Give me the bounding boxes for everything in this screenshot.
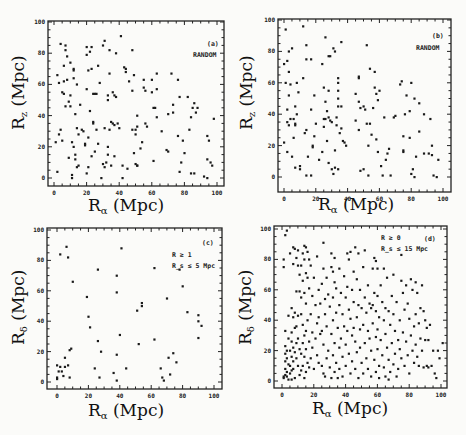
panel-a-ylabel: Rz (Mpc) bbox=[8, 55, 29, 130]
panel-d-ylabel: Rδ (Mpc) bbox=[235, 270, 256, 345]
figure-four-panel-scatter: 020406080100020406080100 (a) RANDOM Rz (… bbox=[0, 0, 466, 435]
svg-text:40: 40 bbox=[37, 317, 45, 324]
svg-text:100: 100 bbox=[33, 226, 44, 233]
svg-text:100: 100 bbox=[34, 18, 45, 25]
svg-text:40: 40 bbox=[268, 110, 276, 117]
panel-b-annotation: RANDOM bbox=[416, 44, 440, 52]
svg-text:80: 80 bbox=[268, 47, 276, 54]
svg-text:40: 40 bbox=[342, 391, 350, 398]
svg-text:80: 80 bbox=[406, 391, 414, 398]
svg-text:80: 80 bbox=[38, 49, 46, 56]
svg-text:0: 0 bbox=[282, 195, 286, 202]
panel-a-label: (a) bbox=[207, 40, 219, 48]
svg-text:80: 80 bbox=[179, 392, 187, 399]
svg-text:60: 60 bbox=[264, 286, 272, 293]
panel-c-annotation-1: R ≥ 1 bbox=[172, 251, 192, 259]
svg-text:20: 20 bbox=[38, 143, 46, 150]
svg-text:0: 0 bbox=[267, 377, 271, 384]
panel-c: 020406080100020406080100 (c) R ≥ 1 R_s ≤… bbox=[8, 226, 222, 421]
panel-d-annotation-2: R_s ≤ 15 Mpc bbox=[381, 245, 428, 253]
panel-d-annotation-1: R ≥ 0 bbox=[381, 234, 401, 242]
svg-text:60: 60 bbox=[38, 80, 46, 87]
svg-text:60: 60 bbox=[148, 392, 156, 399]
svg-text:0: 0 bbox=[271, 173, 275, 180]
panel-d-label: (d) bbox=[424, 235, 436, 243]
panel-d-xlabel: Rα (Mpc) bbox=[312, 398, 388, 419]
panel-a-xlabel: Rα (Mpc) bbox=[88, 195, 164, 216]
panel-c-label: (c) bbox=[202, 239, 214, 247]
svg-text:0: 0 bbox=[40, 378, 44, 385]
svg-text:20: 20 bbox=[310, 391, 318, 398]
panel-c-frame bbox=[47, 228, 222, 389]
panel-b-xlabel: Rα (Mpc) bbox=[318, 194, 394, 215]
svg-text:20: 20 bbox=[37, 348, 45, 355]
panel-c-xlabel: Rα (Mpc) bbox=[88, 400, 164, 421]
panel-c-ylabel: Rδ (Mpc) bbox=[8, 270, 29, 345]
svg-text:40: 40 bbox=[116, 392, 124, 399]
svg-text:80: 80 bbox=[37, 256, 45, 263]
svg-text:0: 0 bbox=[280, 391, 284, 398]
svg-text:100: 100 bbox=[436, 391, 447, 398]
svg-text:80: 80 bbox=[264, 255, 272, 262]
svg-text:100: 100 bbox=[438, 195, 449, 202]
panel-a-annotation: RANDOM bbox=[193, 51, 217, 59]
svg-text:100: 100 bbox=[209, 392, 220, 399]
svg-text:60: 60 bbox=[268, 79, 276, 86]
svg-text:100: 100 bbox=[212, 189, 223, 196]
svg-text:20: 20 bbox=[85, 392, 93, 399]
panel-d: 020406080100020406080100 (d) R ≥ 0 R_s ≤… bbox=[235, 225, 447, 419]
panel-c-ticks: 020406080100020406080100 bbox=[33, 226, 222, 399]
svg-text:80: 80 bbox=[408, 195, 416, 202]
svg-text:0: 0 bbox=[55, 392, 59, 399]
panel-a-frame bbox=[48, 21, 224, 186]
svg-text:40: 40 bbox=[38, 112, 46, 119]
svg-text:60: 60 bbox=[374, 391, 382, 398]
panel-a-points bbox=[55, 35, 215, 179]
svg-text:0: 0 bbox=[52, 189, 56, 196]
svg-text:20: 20 bbox=[264, 347, 272, 354]
svg-text:80: 80 bbox=[181, 189, 189, 196]
panel-b-label: (b) bbox=[432, 32, 444, 40]
panel-a: 020406080100020406080100 (a) RANDOM Rz (… bbox=[8, 18, 224, 216]
panel-b-ylabel: Rz (Mpc) bbox=[236, 55, 257, 130]
panel-b: 020406080100020406080100 (b) RANDOM Rz (… bbox=[236, 16, 451, 215]
svg-text:20: 20 bbox=[268, 142, 276, 149]
svg-text:40: 40 bbox=[264, 316, 272, 323]
panel-c-annotation-2: R_s ≤ 5 Mpc bbox=[172, 262, 215, 270]
svg-text:100: 100 bbox=[260, 225, 271, 232]
svg-text:0: 0 bbox=[41, 174, 45, 181]
panel-a-ticks: 020406080100020406080100 bbox=[34, 18, 224, 196]
svg-text:100: 100 bbox=[264, 16, 275, 23]
svg-text:60: 60 bbox=[37, 287, 45, 294]
